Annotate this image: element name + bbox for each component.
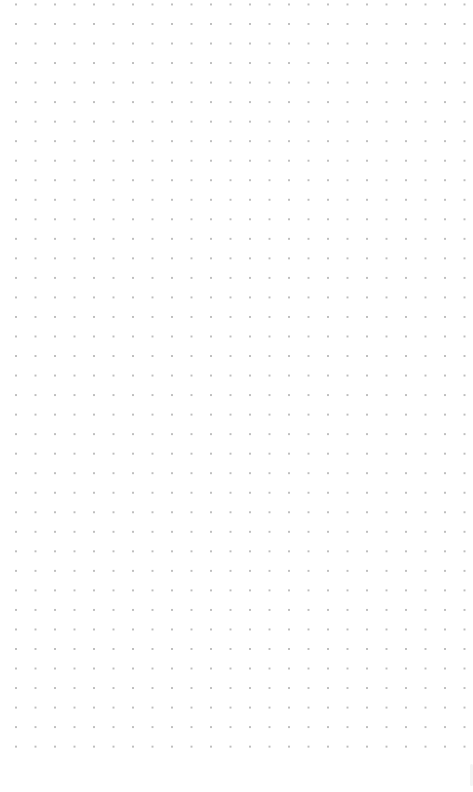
dot-grid-pattern xyxy=(0,0,473,757)
dot-grid-canvas[interactable] xyxy=(0,0,473,792)
